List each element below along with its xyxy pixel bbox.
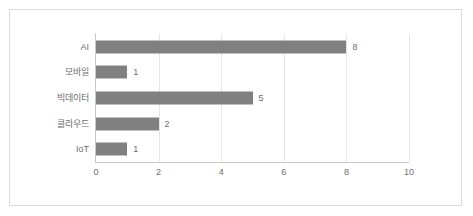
x-axis-tick-labels: 0246810	[96, 168, 409, 182]
bar[interactable]	[96, 117, 159, 130]
bar-row: 빅데이터5	[96, 85, 409, 111]
bar[interactable]	[96, 66, 127, 79]
x-tick-label: 10	[404, 168, 414, 177]
bar-row: 클라우드2	[96, 111, 409, 137]
bar-value-label: 8	[352, 42, 357, 51]
x-tick-label: 0	[93, 168, 98, 177]
bar-row: IoT1	[96, 136, 409, 162]
category-label: IoT	[76, 145, 89, 154]
x-axis-line	[95, 162, 409, 163]
category-label: 빅데이터	[57, 93, 89, 102]
category-label: AI	[80, 42, 89, 51]
bar-value-label: 2	[165, 119, 170, 128]
bar-value-label: 1	[133, 145, 138, 154]
x-tick-label: 6	[281, 168, 286, 177]
bar[interactable]	[96, 40, 346, 53]
chart-screenshot: AI8모바일1빅데이터5클라우드2IoT1 0246810	[0, 0, 473, 216]
plot-area: AI8모바일1빅데이터5클라우드2IoT1	[96, 34, 409, 162]
category-label: 모바일	[65, 68, 89, 77]
bar[interactable]	[96, 143, 127, 156]
x-tick-label: 4	[219, 168, 224, 177]
bar-value-label: 1	[133, 68, 138, 77]
chart-frame: AI8모바일1빅데이터5클라우드2IoT1 0246810	[9, 9, 462, 206]
bar-rows: AI8모바일1빅데이터5클라우드2IoT1	[96, 34, 409, 162]
bar-row: AI8	[96, 34, 409, 60]
x-tick-label: 8	[344, 168, 349, 177]
bar-value-label: 5	[259, 93, 264, 102]
x-tick-label: 2	[156, 168, 161, 177]
gridline	[409, 34, 410, 162]
category-label: 클라우드	[57, 119, 89, 128]
bar[interactable]	[96, 91, 253, 104]
bar-row: 모바일1	[96, 60, 409, 86]
